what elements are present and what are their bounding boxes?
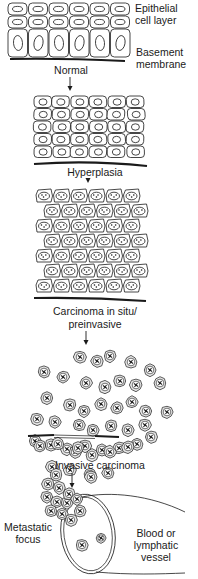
stage-label-hyperplasia: Hyperplasia <box>40 166 150 178</box>
carcinogenesis-illustration <box>0 0 198 579</box>
normal-epithelium <box>8 3 130 61</box>
epithelial-label-line2: cell layer <box>135 14 176 26</box>
vessel-label-line3: vessel <box>124 551 188 563</box>
stage-label-normal: Normal <box>40 64 102 76</box>
vessel-label-line2: lymphatic <box>124 539 188 551</box>
metastatic-label-line1: Metastatic <box>0 521 56 533</box>
vessel-label-line1: Blood or <box>124 527 188 539</box>
metastatic-label-line2: focus <box>0 533 56 545</box>
carcinoma-in-situ-epithelium <box>34 189 148 301</box>
stage-label-cis-line1: Carcinoma in situ/ <box>35 305 155 317</box>
epithelial-label-line1: Epithelial <box>135 2 178 14</box>
basement-label-line1: Basement <box>136 46 183 58</box>
stage-label-cis-line2: preinvasive <box>35 318 155 330</box>
basement-label-line2: membrane <box>136 58 186 70</box>
hyperplasia-epithelium <box>33 96 147 166</box>
stage-label-invasive: Invasive carcinoma <box>40 459 160 471</box>
